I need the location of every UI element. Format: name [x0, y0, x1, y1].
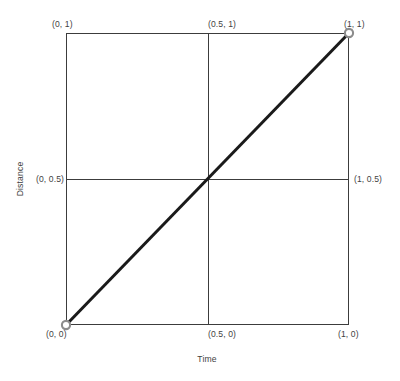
diagonal-line	[66, 33, 349, 325]
label-bottom-left: (0, 0)	[46, 329, 67, 339]
label-bottom-center: (0.5, 0)	[208, 329, 236, 339]
label-mid-left: (0, 0.5)	[36, 174, 64, 184]
data-series-linear	[0, 0, 400, 381]
x-axis-title: Time	[197, 354, 216, 364]
unit-square-timing-curve-figure: (0, 1) (0.5, 1) (1, 1) (0, 0.5) (1, 0.5)…	[0, 0, 400, 381]
label-top-left: (0, 1)	[52, 19, 73, 29]
label-bottom-right: (1, 0)	[338, 329, 359, 339]
marker-point-1-1	[345, 29, 353, 37]
label-mid-right: (1, 0.5)	[354, 174, 382, 184]
label-top-right: (1, 1)	[344, 19, 365, 29]
label-top-center: (0.5, 1)	[208, 19, 236, 29]
marker-point-0-0	[62, 321, 70, 329]
y-axis-title: Distance	[15, 162, 25, 197]
